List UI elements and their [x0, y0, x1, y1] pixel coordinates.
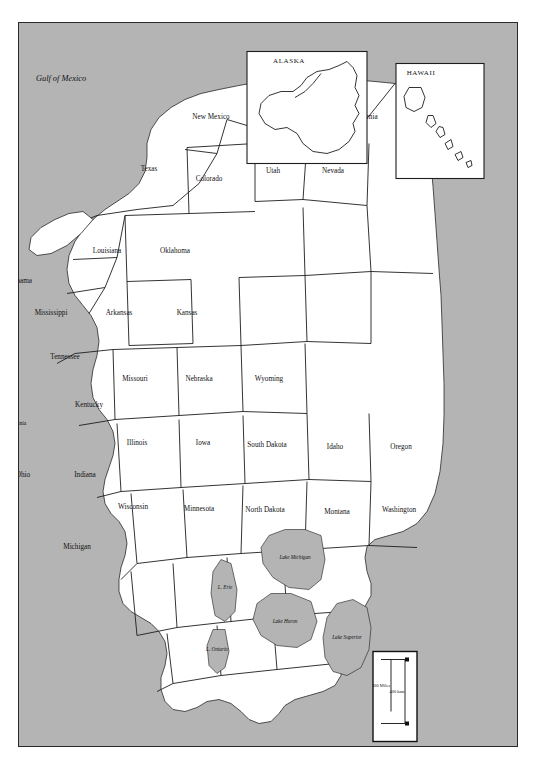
lake-label-michigan: Lake Michigan: [278, 553, 311, 559]
ocean-label-gulf-of-mexico: Gulf of Mexico: [36, 74, 86, 83]
scale-bar-box: [373, 651, 417, 741]
lake-label-superior: Lake Superior: [331, 633, 363, 639]
alaska-inset: ALASKA: [247, 51, 367, 163]
state-label-indiana: Indiana: [74, 471, 96, 479]
state-label-north-dakota: North Dakota: [245, 506, 285, 514]
state-label-west-virginia: West Virginia: [19, 419, 27, 425]
scale-kms-label: 400 kms: [389, 688, 404, 693]
scale-miles-label: 300 Miles: [372, 682, 390, 687]
state-label-texas: Texas: [141, 165, 158, 173]
state-label-utah: Utah: [266, 167, 280, 175]
state-label-minnesota: Minnesota: [184, 505, 215, 513]
map-frame: Washington Oregon California Nevada Idah…: [18, 22, 518, 747]
state-label-idaho: Idaho: [327, 443, 344, 451]
lake-label-erie: L. Erie: [217, 583, 233, 589]
state-label-mississippi: Mississippi: [35, 309, 68, 317]
state-label-wyoming: Wyoming: [255, 375, 284, 383]
state-label-alabama: Alabama: [19, 277, 33, 285]
map-page: Washington Oregon California Nevada Idah…: [0, 0, 544, 767]
state-label-colorado: Colorado: [196, 175, 223, 183]
hawaii-inset-label: HAWAII: [407, 69, 436, 77]
state-label-kansas: Kansas: [177, 309, 198, 317]
state-label-ohio: Ohio: [19, 471, 31, 479]
state-label-washington: Washington: [382, 506, 417, 514]
state-label-oklahoma: Oklahoma: [160, 247, 191, 255]
state-label-illinois: Illinois: [127, 439, 148, 447]
state-label-michigan: Michigan: [63, 543, 91, 551]
state-label-tennessee: Tennessee: [50, 353, 79, 361]
state-label-montana: Montana: [324, 508, 350, 516]
hawaii-inset: HAWAII: [396, 63, 484, 178]
lake-label-ontario: L. Ontario: [205, 645, 228, 651]
state-label-new-mexico: New Mexico: [192, 113, 230, 121]
state-label-oregon: Oregon: [390, 443, 412, 451]
alaska-inset-label: ALASKA: [273, 57, 305, 65]
state-label-kentucky: Kentucky: [75, 401, 103, 409]
scale-bar: 400 kms 300 Miles: [372, 651, 417, 741]
state-label-arkansas: Arkansas: [106, 309, 133, 317]
state-label-louisiana: Louisiana: [93, 247, 122, 255]
state-label-nebraska: Nebraska: [185, 375, 213, 383]
state-label-missouri: Missouri: [122, 375, 148, 383]
state-label-wisconsin: Wisconsin: [118, 503, 148, 511]
state-label-iowa: Iowa: [196, 439, 211, 447]
state-label-nevada: Nevada: [322, 167, 345, 175]
state-label-south-dakota: South Dakota: [247, 441, 287, 449]
lake-label-huron: Lake Huron: [272, 617, 298, 623]
map-canvas-rotated: Washington Oregon California Nevada Idah…: [19, 23, 517, 746]
